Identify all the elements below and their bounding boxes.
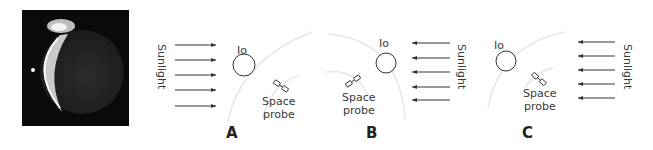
probe-label-c-line2: probe — [524, 100, 556, 113]
io-label-c: Io — [494, 39, 504, 52]
io-circle — [376, 53, 396, 73]
probe-label-b-line1: Space — [342, 91, 376, 104]
probe-label-a-line1: Space — [262, 95, 296, 108]
panel-letter-a: A — [226, 124, 238, 142]
io-circle — [496, 51, 516, 71]
probe-label-a-line2: probe — [263, 108, 295, 121]
io-label-b: Io — [379, 37, 389, 50]
io-circle — [233, 54, 255, 76]
sunlight-arrows — [175, 45, 216, 106]
probe-label-c-line1: Space — [523, 87, 557, 100]
panel-letter-c: C — [522, 124, 533, 142]
probe-label-b-line2: probe — [343, 104, 375, 117]
sunlight-arrows — [412, 43, 450, 100]
sunlight-label-c: Sunlight — [621, 44, 634, 89]
diagram-canvas — [0, 0, 653, 150]
io-label-a: Io — [237, 44, 247, 57]
panel-letter-b: B — [366, 124, 377, 142]
orbit-arc-inner — [525, 68, 553, 88]
sunlight-arrows — [578, 42, 615, 98]
sunlight-label-a: Sunlight — [155, 44, 168, 89]
sunlight-label-b: Sunlight — [455, 44, 468, 89]
